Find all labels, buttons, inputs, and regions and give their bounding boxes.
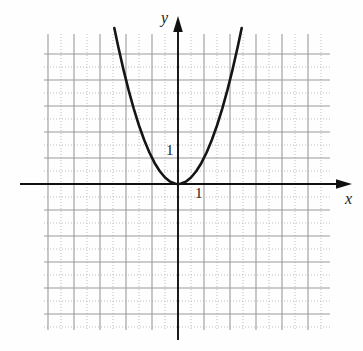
y-axis-unit-label: 1 bbox=[166, 143, 174, 158]
y-axis-label: y bbox=[161, 10, 168, 26]
axes bbox=[20, 16, 352, 340]
x-axis-unit-label: 1 bbox=[195, 186, 203, 201]
coordinate-plane bbox=[0, 0, 363, 351]
x-axis-label: x bbox=[345, 191, 352, 207]
graph-figure: y x 1 1 bbox=[0, 0, 363, 351]
y-axis-arrowhead bbox=[173, 16, 183, 32]
x-axis-arrowhead bbox=[336, 179, 352, 189]
